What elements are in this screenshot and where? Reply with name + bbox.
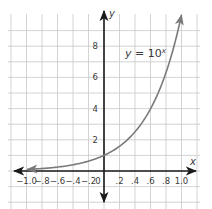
x-tick-label: .8: [162, 176, 170, 186]
x-axis-label: x: [189, 156, 196, 167]
y-tick-label: 8: [93, 41, 98, 51]
equation-base: = 10: [132, 47, 162, 60]
x-tick-label: 1.0: [175, 176, 189, 186]
x-tick-label: −.4: [65, 176, 80, 186]
x-tick-label: 0: [95, 176, 100, 186]
y-tick-label: 2: [93, 135, 98, 145]
x-tick-label: −.2: [81, 176, 96, 186]
y-tick-label: 6: [93, 72, 98, 82]
x-tick-label: −.6: [50, 176, 65, 186]
equation-exponent: x: [161, 47, 167, 55]
x-tick-label: .4: [131, 176, 139, 186]
x-tick-label: −.8: [34, 176, 49, 186]
y-axis-label: y: [108, 8, 116, 19]
equation-label: y = 10x: [124, 47, 167, 60]
x-tick-label: .6: [146, 176, 154, 186]
x-tick-label: .2: [115, 176, 123, 186]
axes: [14, 11, 196, 202]
y-tick-label: 4: [93, 104, 98, 114]
exponential-graph: −1.0−.8−.6−.4−.20.2.4.6.81.02468 x y y =…: [0, 0, 212, 209]
plot-area: −1.0−.8−.6−.4−.20.2.4.6.81.02468 x y y =…: [0, 0, 212, 209]
